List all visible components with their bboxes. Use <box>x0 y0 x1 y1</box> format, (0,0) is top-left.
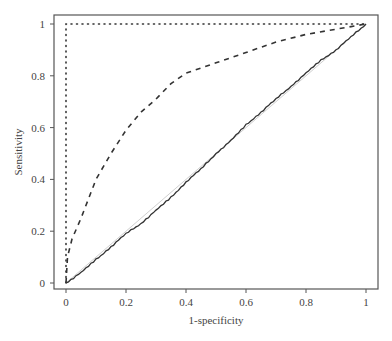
x-tick-label: 0 <box>63 296 69 308</box>
x-tick-label: 1 <box>363 296 369 308</box>
x-tick-label: 0.8 <box>299 296 313 308</box>
y-axis-label: Sensitivity <box>12 128 24 176</box>
y-axis-ticks: 00.20.40.60.81 <box>31 18 54 289</box>
x-tick-label: 0.2 <box>119 296 133 308</box>
y-tick-label: 0.8 <box>31 70 45 82</box>
x-tick-label: 0.4 <box>179 296 193 308</box>
y-tick-label: 1 <box>40 18 46 30</box>
x-axis-label: 1-specificity <box>189 314 244 326</box>
y-tick-label: 0 <box>40 277 46 289</box>
series-layer <box>66 24 366 283</box>
x-tick-label: 0.6 <box>239 296 253 308</box>
y-tick-label: 0.2 <box>31 225 45 237</box>
roc-chart: 00.20.40.60.81 00.20.40.60.81 1-specific… <box>0 0 392 341</box>
y-tick-label: 0.4 <box>31 173 45 185</box>
x-axis-ticks: 00.20.40.60.81 <box>63 289 369 308</box>
y-tick-label: 0.6 <box>31 122 45 134</box>
